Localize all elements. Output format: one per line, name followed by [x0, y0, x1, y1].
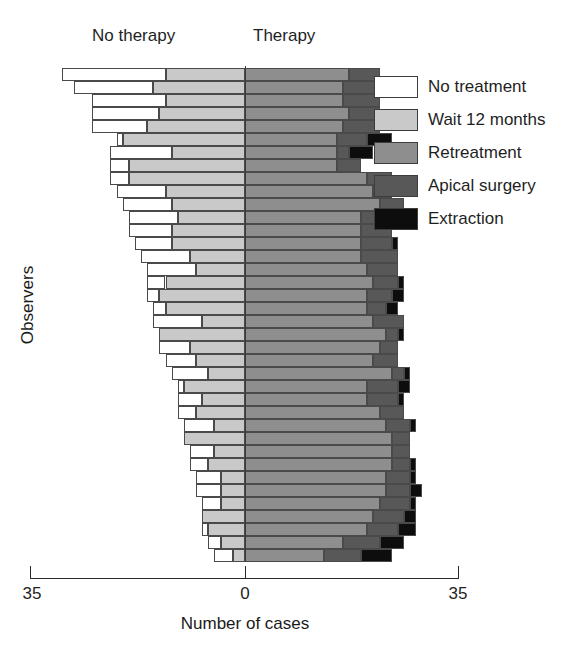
bar-segment	[166, 185, 245, 198]
bar-segment	[196, 484, 220, 497]
bar-segment	[190, 250, 245, 263]
bar-segment	[110, 172, 128, 185]
bar-segment	[129, 172, 245, 185]
bar-segment	[361, 250, 398, 263]
bar-row	[0, 419, 470, 432]
bar-segment	[245, 250, 361, 263]
bar-row	[0, 237, 470, 250]
bar-segment	[386, 302, 398, 315]
bar-segment	[166, 68, 245, 81]
bar-segment	[245, 497, 380, 510]
bar-segment	[245, 523, 367, 536]
bar-segment	[245, 68, 349, 81]
bar-segment	[245, 419, 386, 432]
bar-segment	[367, 302, 385, 315]
bar-segment	[392, 367, 404, 380]
bar-row	[0, 536, 470, 549]
bar-row	[0, 276, 470, 289]
bar-row	[0, 445, 470, 458]
bar-segment	[398, 380, 410, 393]
bar-segment	[178, 406, 196, 419]
bar-row	[0, 302, 470, 315]
bar-segment	[214, 549, 232, 562]
bar-segment	[245, 393, 367, 406]
bar-segment	[117, 185, 166, 198]
bar-segment	[147, 276, 165, 289]
bar-segment	[392, 458, 410, 471]
bar-row	[0, 315, 470, 328]
bar-segment	[196, 263, 245, 276]
bar-segment	[92, 107, 159, 120]
bar-segment	[245, 94, 343, 107]
bar-segment	[110, 146, 171, 159]
bar-segment	[135, 237, 172, 250]
bar-segment	[190, 341, 245, 354]
bar-segment	[337, 133, 368, 146]
x-tick-label-right: 35	[428, 584, 488, 604]
bar-segment	[386, 471, 410, 484]
bar-segment	[373, 276, 397, 289]
legend-label: Wait 12 months	[428, 110, 545, 130]
bar-segment	[221, 536, 245, 549]
bar-segment	[245, 276, 373, 289]
bar-segment	[172, 237, 245, 250]
bar-segment	[245, 172, 367, 185]
bar-segment	[159, 289, 245, 302]
legend-label: Apical surgery	[428, 176, 536, 196]
chart-legend: No treatmentWait 12 monthsRetreatmentApi…	[374, 70, 584, 235]
bar-segment	[202, 510, 245, 523]
legend-swatch	[374, 76, 418, 98]
bar-segment	[141, 250, 190, 263]
bar-segment	[92, 120, 147, 133]
bar-segment	[380, 341, 398, 354]
bar-segment	[221, 471, 245, 484]
bar-segment	[245, 432, 392, 445]
bar-row	[0, 510, 470, 523]
bar-row	[0, 549, 470, 562]
bar-segment	[392, 289, 404, 302]
bar-segment	[190, 458, 208, 471]
bar-segment	[190, 445, 214, 458]
bar-segment	[386, 328, 398, 341]
bar-row	[0, 367, 470, 380]
group-label-no-therapy: No therapy	[92, 26, 175, 46]
bar-segment	[245, 341, 380, 354]
bar-row	[0, 497, 470, 510]
bar-segment	[380, 497, 411, 510]
bar-segment	[245, 484, 386, 497]
bar-segment	[147, 120, 245, 133]
bar-segment	[166, 302, 245, 315]
bar-segment	[367, 263, 398, 276]
bar-row	[0, 341, 470, 354]
legend-swatch	[374, 175, 418, 197]
bar-segment	[386, 419, 410, 432]
bar-segment	[245, 263, 367, 276]
bar-segment	[166, 276, 245, 289]
legend-item: Apical surgery	[374, 169, 584, 202]
bar-segment	[361, 549, 392, 562]
bar-segment	[245, 536, 343, 549]
bar-segment	[367, 380, 398, 393]
bar-segment	[184, 419, 215, 432]
bar-segment	[178, 211, 245, 224]
bar-segment	[245, 315, 373, 328]
bar-segment	[392, 445, 410, 458]
bar-segment	[233, 549, 245, 562]
bar-row	[0, 354, 470, 367]
bar-segment	[398, 328, 404, 341]
bar-segment	[129, 159, 245, 172]
bar-segment	[184, 432, 245, 445]
legend-item: Extraction	[374, 202, 584, 235]
bar-segment	[159, 328, 245, 341]
bar-segment	[410, 419, 416, 432]
bar-row	[0, 250, 470, 263]
legend-item: Wait 12 months	[374, 103, 584, 136]
bar-segment	[245, 445, 392, 458]
bar-row	[0, 523, 470, 536]
legend-item: Retreatment	[374, 136, 584, 169]
bar-segment	[208, 523, 245, 536]
bar-segment	[373, 315, 404, 328]
x-axis-line	[30, 578, 459, 579]
bar-segment	[159, 341, 190, 354]
bar-segment	[245, 354, 373, 367]
